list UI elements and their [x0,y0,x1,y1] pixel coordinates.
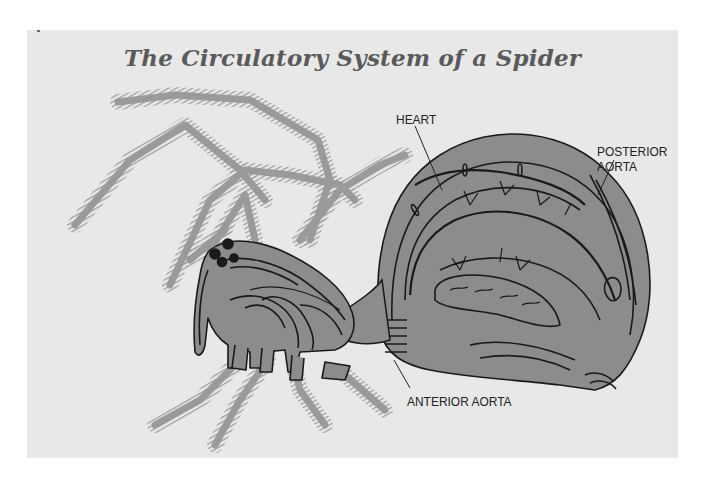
label-posterior-aorta-line2: AORTA [597,159,637,174]
label-posterior-aorta-line1: POSTERIOR [597,144,667,159]
label-heart: HEART [396,112,436,127]
label-anterior-aorta: ANTERIOR AORTA [407,394,512,409]
spider-eye [230,254,238,262]
spider-eye [218,258,227,267]
spider-eye [223,239,233,249]
spider-illustration [0,0,701,484]
spider-eye [210,249,220,259]
